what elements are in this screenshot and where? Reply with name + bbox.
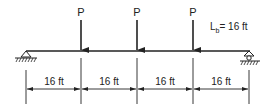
load-label: P: [189, 6, 196, 18]
unbraced-length-label: Lb= 16 ft: [210, 21, 248, 34]
span-label-1: 16 ft: [44, 76, 64, 87]
span-label-4: 16 ft: [211, 76, 231, 87]
lb-value: = 16 ft: [219, 21, 247, 32]
pin-support-icon: [15, 51, 37, 62]
load-1: P: [77, 6, 84, 50]
load-label: P: [133, 6, 140, 18]
roller-support-icon: [240, 51, 260, 65]
load-label: P: [77, 6, 84, 18]
svg-text:Lb= 16 ft: Lb= 16 ft: [210, 21, 248, 34]
span-label-3: 16 ft: [155, 76, 175, 87]
beam-diagram: P P P Lb= 16 ft: [0, 0, 272, 110]
load-2: P: [133, 6, 140, 50]
load-3: P: [189, 6, 196, 50]
span-label-2: 16 ft: [99, 76, 119, 87]
